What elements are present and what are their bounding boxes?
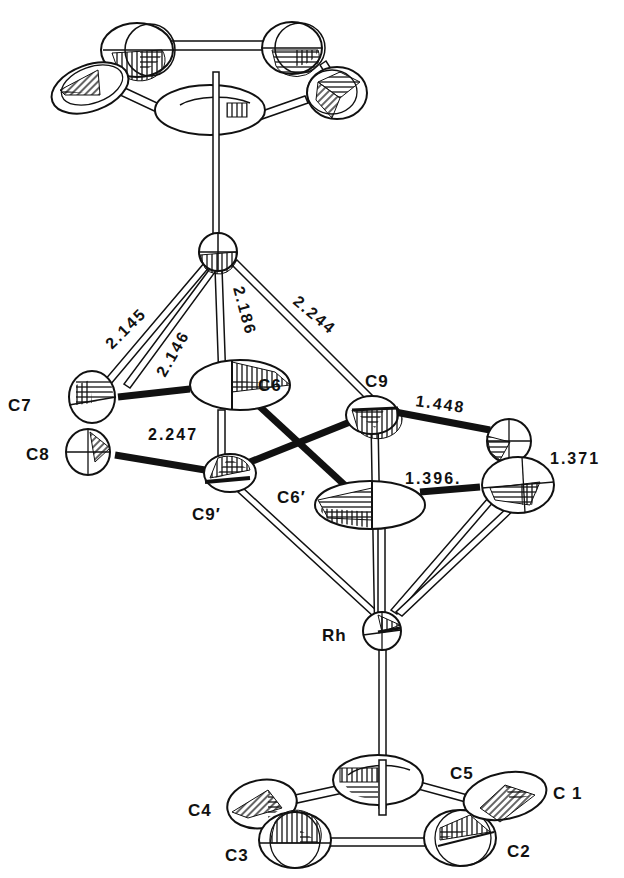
atom-top-c-right xyxy=(307,67,367,119)
bottom-cp-ring xyxy=(223,755,551,868)
dist-m-c7-b: 2.146 xyxy=(153,328,193,380)
label-c5: C5 xyxy=(450,764,474,783)
atom-c8 xyxy=(66,429,110,475)
atom-top-c-back xyxy=(155,85,265,135)
bond-rh-c-right-b xyxy=(396,505,516,616)
dist-c6p-right: 1.396. xyxy=(405,470,461,487)
dist-m-c6: 2.186 xyxy=(230,284,259,337)
dist-c9-right: 1.448 xyxy=(415,392,467,416)
atom-top-metal xyxy=(199,233,237,274)
ortep-diagram: C6 C7 C8 C9 C9′ C6′ Rh C5 C 1 C2 C3 C4 2… xyxy=(0,0,624,878)
label-c6-prime: C6′ xyxy=(277,488,306,507)
atom-rh xyxy=(363,612,401,650)
bond-rh-axis-end xyxy=(379,760,386,815)
label-c9-prime: C9′ xyxy=(192,505,221,524)
bond-rh-c6p xyxy=(378,520,385,615)
label-rh: Rh xyxy=(322,626,347,645)
top-cp-ring xyxy=(45,22,367,135)
atom-c3 xyxy=(259,810,331,868)
bond-top-axis xyxy=(213,72,219,242)
atom-c9 xyxy=(346,396,402,439)
atom-c7 xyxy=(69,371,116,423)
label-c1: C 1 xyxy=(553,784,582,803)
label-c2: C2 xyxy=(507,842,531,861)
atom-c6-prime xyxy=(315,481,425,529)
atom-top-c-upper-right xyxy=(262,22,325,77)
label-c4: C4 xyxy=(188,801,212,820)
atom-c9-prime xyxy=(204,454,256,492)
label-c9: C9 xyxy=(365,372,389,391)
bond-top-ring-1 xyxy=(168,41,268,50)
label-c8: C8 xyxy=(26,445,50,464)
bond-c6-c9p xyxy=(218,410,225,460)
dist-right-vertical: 1.371 xyxy=(550,450,600,467)
label-c3: C3 xyxy=(225,846,249,865)
dist-c6-c9p: 2.247 xyxy=(148,426,198,443)
label-c7: C7 xyxy=(8,396,32,415)
atom-c-right-lower xyxy=(482,457,554,513)
atom-c5 xyxy=(333,755,423,805)
label-c6: C6 xyxy=(258,376,282,395)
